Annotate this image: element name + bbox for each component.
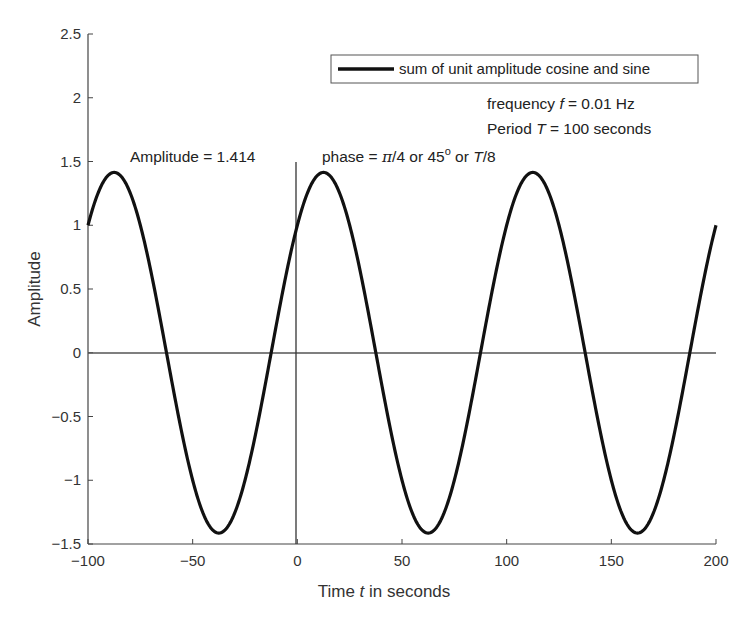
frequency-annotation: frequency f = 0.01 Hz [487, 95, 635, 112]
y-axis-title: Amplitude [25, 251, 44, 327]
x-tick-label: 150 [599, 552, 624, 569]
y-tick-label: 0 [73, 344, 81, 361]
period-annotation: Period T = 100 seconds [487, 120, 651, 137]
y-tick-label: 1 [73, 216, 81, 233]
y-tick-label: −0.5 [51, 408, 81, 425]
legend: sum of unit amplitude cosine and sine [331, 55, 698, 83]
y-ticks: −1.5−1−0.500.511.522.5 [51, 25, 93, 552]
amplitude-annotation: Amplitude = 1.414 [130, 148, 256, 165]
y-tick-label: 1.5 [60, 153, 81, 170]
chart: −1.5−1−0.500.511.522.5 −100−500501001502… [0, 0, 755, 626]
x-tick-label: 100 [494, 552, 519, 569]
y-tick-label: 2 [73, 89, 81, 106]
x-tick-label: 200 [703, 552, 728, 569]
phase-annotation: phase = π/4 or 45o or T/8 [322, 145, 496, 166]
y-tick-label: −1 [64, 471, 81, 488]
x-tick-label: −100 [71, 552, 105, 569]
x-tick-label: 0 [293, 552, 301, 569]
legend-label: sum of unit amplitude cosine and sine [399, 60, 650, 77]
x-tick-label: 50 [394, 552, 411, 569]
y-tick-label: 0.5 [60, 280, 81, 297]
x-axis-title: Time t in seconds [318, 582, 451, 601]
y-tick-label: −1.5 [51, 535, 81, 552]
x-tick-label: −50 [180, 552, 205, 569]
y-tick-label: 2.5 [60, 25, 81, 42]
